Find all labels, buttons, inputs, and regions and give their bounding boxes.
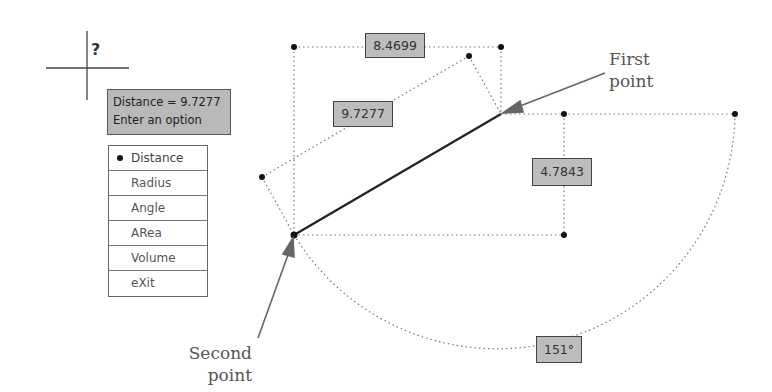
angle-dimension: 151° xyxy=(536,336,582,363)
distance-dimension: 9.7277 xyxy=(333,101,393,127)
question-mark-icon: ? xyxy=(91,40,100,59)
grip-points xyxy=(259,44,738,239)
menu-item-exit[interactable]: eXit xyxy=(109,271,207,296)
first-point-label-line2: point xyxy=(609,70,653,92)
second-point-label-line2: point xyxy=(176,364,252,386)
angle-arc xyxy=(294,114,735,349)
tooltip-distance-text: Distance = 9.7277 xyxy=(113,93,225,111)
first-point-callout: First point xyxy=(609,48,653,92)
first-point-label-line1: First xyxy=(609,48,653,70)
dimension-guides xyxy=(262,47,735,349)
delta-x-dimension: 8.4699 xyxy=(365,33,425,58)
option-menu: Distance Radius Angle ARea Volume eXit xyxy=(108,145,208,297)
menu-item-label: eXit xyxy=(131,276,155,290)
menu-item-label: Radius xyxy=(131,176,171,190)
menu-item-area[interactable]: ARea xyxy=(109,221,207,246)
menu-item-label: Angle xyxy=(131,201,165,215)
dynamic-input-tooltip: Distance = 9.7277 Enter an option xyxy=(107,89,231,135)
menu-item-volume[interactable]: Volume xyxy=(109,246,207,271)
menu-item-angle[interactable]: Angle xyxy=(109,196,207,221)
tooltip-prompt-text: Enter an option xyxy=(113,111,225,129)
second-point-label-line1: Second xyxy=(176,342,252,364)
menu-item-distance[interactable]: Distance xyxy=(109,146,207,171)
measured-line xyxy=(294,114,501,235)
menu-item-label: Distance xyxy=(131,151,183,165)
menu-item-label: ARea xyxy=(131,226,162,240)
selected-bullet-icon xyxy=(117,155,123,161)
menu-item-radius[interactable]: Radius xyxy=(109,171,207,196)
second-point-callout: Second point xyxy=(176,342,252,386)
menu-item-label: Volume xyxy=(131,251,176,265)
delta-y-dimension: 4.7843 xyxy=(532,158,592,186)
callout-arrows xyxy=(258,73,605,338)
